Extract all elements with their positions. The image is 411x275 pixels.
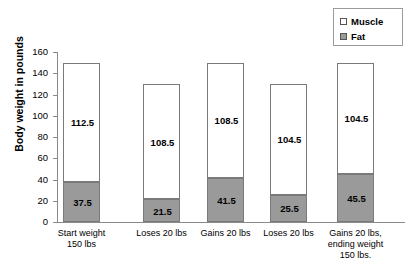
y-axis-tick: [53, 73, 58, 74]
bar-5: 104.545.5: [337, 63, 374, 222]
bar-segment-fat: 37.5: [63, 182, 100, 222]
x-axis-label-line: ending weight: [313, 239, 399, 250]
x-axis-label-line: Gains 20 lbs,: [313, 228, 399, 239]
y-axis-tick: [53, 95, 58, 96]
bar-segment-muscle: 112.5: [63, 63, 100, 183]
bar-value-label-muscle: 108.5: [208, 115, 245, 126]
y-axis-tick-label: 80: [18, 131, 48, 142]
y-axis-tick-label: 140: [18, 67, 48, 78]
y-axis-tick-label: 160: [18, 46, 48, 57]
x-axis-label-line: 150 lbs.: [313, 250, 399, 261]
legend-swatch-muscle-icon: [340, 18, 347, 25]
bar-2: 108.521.5: [143, 84, 180, 222]
bar-value-label-fat: 41.5: [208, 195, 245, 206]
legend: Muscle Fat: [333, 8, 403, 46]
bar-4: 104.525.5: [270, 84, 307, 222]
bar-3: 108.541.5: [207, 63, 244, 222]
bar-segment-fat: 45.5: [337, 174, 374, 222]
bar-segment-muscle: 104.5: [270, 84, 307, 195]
bar-segment-muscle: 104.5: [337, 63, 374, 174]
y-axis-tick: [53, 158, 58, 159]
legend-label-fat: Fat: [351, 31, 365, 42]
bar-segment-muscle: 108.5: [143, 84, 180, 199]
legend-item-fat: Fat: [340, 29, 402, 44]
y-axis-tick: [53, 201, 58, 202]
x-axis-label-1: Start weight150 lbs: [39, 228, 125, 250]
bar-value-label-muscle: 112.5: [64, 117, 101, 128]
x-axis-label-5: Gains 20 lbs,ending weight150 lbs.: [313, 228, 399, 261]
y-axis-tick-label: 100: [18, 110, 48, 121]
y-axis-tick: [53, 222, 58, 223]
x-axis-line: [57, 222, 405, 223]
y-axis-tick-label: 120: [18, 89, 48, 100]
legend-item-muscle: Muscle: [340, 14, 402, 29]
y-axis-tick: [53, 180, 58, 181]
bar-segment-fat: 25.5: [270, 195, 307, 222]
y-axis-tick-label: 60: [18, 152, 48, 163]
y-axis-tick-label: 20: [18, 195, 48, 206]
stacked-bar-chart: Body weight in pounds 160140120100806040…: [0, 0, 411, 275]
x-axis-label-line: Start weight: [39, 228, 125, 239]
bar-value-label-muscle: 104.5: [338, 113, 375, 124]
bar-segment-fat: 41.5: [207, 178, 244, 222]
bar-segment-fat: 21.5: [143, 199, 180, 222]
bar-value-label-fat: 21.5: [144, 206, 181, 217]
bar-value-label-fat: 45.5: [338, 193, 375, 204]
bar-segment-muscle: 108.5: [207, 63, 244, 178]
x-axis-label-line: 150 lbs: [39, 239, 125, 250]
y-axis-tick-label: 40: [18, 174, 48, 185]
bar-value-label-fat: 37.5: [64, 197, 101, 208]
y-axis-tick: [53, 52, 58, 53]
bar-value-label-muscle: 108.5: [144, 137, 181, 148]
bar-1: 112.537.5: [63, 63, 100, 222]
bar-value-label-muscle: 104.5: [271, 134, 308, 145]
legend-label-muscle: Muscle: [351, 16, 383, 27]
bar-value-label-fat: 25.5: [271, 203, 308, 214]
legend-swatch-fat-icon: [340, 33, 347, 40]
y-axis-tick: [53, 116, 58, 117]
y-axis-tick-label: 0: [18, 216, 48, 227]
y-axis-tick: [53, 137, 58, 138]
